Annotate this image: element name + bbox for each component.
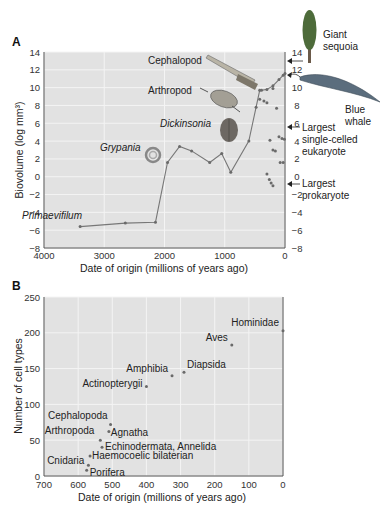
- svg-text:Cnidaria: Cnidaria: [47, 455, 85, 466]
- label-largest-prokaryote: Largest: [302, 178, 336, 189]
- svg-text:single-celled: single-celled: [302, 134, 358, 145]
- svg-text:10: 10: [292, 82, 303, 93]
- svg-text:−8: −8: [292, 243, 303, 254]
- svg-text:Hominidae: Hominidae: [231, 317, 279, 328]
- data-point: Cnidaria: [47, 455, 90, 467]
- blue-whale-illustration: [300, 75, 380, 102]
- svg-text:6: 6: [35, 118, 40, 129]
- data-point: Actinopterygii: [82, 378, 148, 389]
- svg-text:4: 4: [294, 136, 299, 147]
- arrow-head-icon: [287, 124, 292, 130]
- svg-text:300: 300: [173, 479, 189, 490]
- label-arthropod: Arthropod: [148, 85, 192, 96]
- label-largest-single-celled-eukaryote: Largest: [302, 122, 336, 133]
- data-point: Agnatha: [107, 427, 148, 438]
- svg-text:prokaryote: prokaryote: [302, 190, 350, 201]
- svg-text:−6: −6: [29, 225, 40, 236]
- label-giant-sequoia: Giant: [323, 29, 347, 40]
- svg-text:200: 200: [207, 479, 223, 490]
- y-axis-label-b: Number of cell types: [12, 338, 24, 434]
- svg-text:−2: −2: [29, 189, 40, 200]
- svg-text:100: 100: [241, 479, 257, 490]
- svg-text:200: 200: [24, 327, 40, 338]
- data-point: Haemocoelic bilaterian: [89, 450, 194, 461]
- label-grypania: Grypania: [100, 142, 141, 153]
- svg-text:Cephalopoda: Cephalopoda: [48, 410, 108, 421]
- svg-text:12: 12: [292, 64, 303, 75]
- svg-text:Amphibia: Amphibia: [126, 363, 168, 374]
- svg-text:10: 10: [29, 82, 40, 93]
- arrow-head-icon: [287, 181, 292, 187]
- label-primaevifilum: Primaevifilum: [22, 210, 82, 221]
- label-dickinsonia: Dickinsonia: [160, 118, 212, 129]
- svg-text:Porifera: Porifera: [90, 467, 125, 478]
- x-axis-label-b: Date of origin (millions of years ago): [78, 491, 246, 503]
- arrow-head-icon: [287, 58, 292, 64]
- svg-text:2000: 2000: [154, 250, 175, 261]
- svg-text:12: 12: [29, 64, 40, 75]
- svg-text:−2: −2: [292, 189, 303, 200]
- svg-text:700: 700: [36, 479, 52, 490]
- svg-text:0: 0: [280, 479, 285, 490]
- svg-text:0: 0: [294, 171, 299, 182]
- arrow-head-icon: [287, 72, 292, 78]
- svg-text:Actinopterygii: Actinopterygii: [82, 378, 142, 389]
- dickinsonia-illustration: [220, 118, 238, 142]
- svg-text:8: 8: [294, 100, 299, 111]
- svg-text:0: 0: [282, 250, 287, 261]
- svg-text:whale: whale: [344, 116, 372, 127]
- svg-text:500: 500: [104, 479, 120, 490]
- svg-text:4: 4: [35, 136, 40, 147]
- svg-text:Haemocoelic bilaterian: Haemocoelic bilaterian: [92, 450, 193, 461]
- panel-label-a: A: [12, 35, 21, 49]
- svg-text:14: 14: [29, 47, 40, 58]
- svg-text:eukaryote: eukaryote: [302, 146, 346, 157]
- svg-text:Arthropoda: Arthropoda: [45, 425, 95, 436]
- svg-text:14: 14: [292, 47, 303, 58]
- svg-text:−4: −4: [292, 207, 303, 218]
- svg-text:1000: 1000: [214, 250, 235, 261]
- svg-text:100: 100: [24, 399, 40, 410]
- data-point: Porifera: [85, 467, 125, 478]
- svg-text:8: 8: [35, 100, 40, 111]
- svg-text:150: 150: [24, 363, 40, 374]
- label-cephalopod: Cephalopod: [148, 55, 202, 66]
- panel-b: B 250200150100500 7006005004003002001000…: [12, 279, 286, 503]
- x-axis-ticks-b: 7006005004003002001000: [36, 479, 286, 490]
- svg-text:Aves: Aves: [206, 332, 228, 343]
- svg-text:3000: 3000: [94, 250, 115, 261]
- y-axis-ticks-a: 14121086420−2−4−6−8: [29, 47, 40, 254]
- svg-text:−6: −6: [292, 225, 303, 236]
- figure-canvas: A 14121086420−2−4−6−8 14121086420−2−4−6−…: [0, 0, 386, 508]
- giant-sequoia-illustration: [303, 10, 317, 63]
- svg-text:2: 2: [294, 153, 299, 164]
- svg-text:Agnatha: Agnatha: [111, 427, 149, 438]
- svg-text:600: 600: [70, 479, 86, 490]
- x-axis-label-a: Date of origin (millions of years ago): [80, 262, 248, 274]
- y-axis-label-a: Biovolume (log mm³): [13, 102, 25, 199]
- svg-text:2: 2: [35, 153, 40, 164]
- y-axis-ticks-b: 250200150100500: [24, 292, 40, 482]
- svg-text:4000: 4000: [33, 250, 54, 261]
- label-blue-whale: Blue: [345, 104, 365, 115]
- svg-text:400: 400: [138, 479, 154, 490]
- svg-text:sequoia: sequoia: [323, 41, 358, 52]
- panel-a: A 14121086420−2−4−6−8 14121086420−2−4−6−…: [12, 10, 380, 274]
- svg-text:250: 250: [24, 292, 40, 303]
- svg-text:0: 0: [35, 171, 40, 182]
- panel-label-b: B: [12, 279, 21, 293]
- x-axis-ticks-a: 40003000200010000: [33, 250, 287, 261]
- svg-text:Diapsida: Diapsida: [187, 359, 226, 370]
- svg-text:50: 50: [29, 435, 40, 446]
